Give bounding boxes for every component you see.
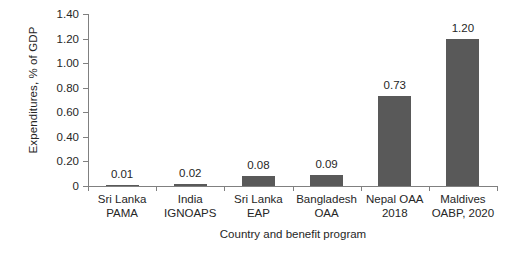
- x-axis-category-label: BangladeshOAA: [296, 193, 357, 220]
- bar-value-label: 0.73: [384, 79, 406, 91]
- x-axis-category-label: IndiaIGNOAPS: [164, 193, 216, 220]
- plot-area: [88, 14, 497, 186]
- bar-value-label: 0.09: [315, 158, 337, 170]
- x-axis-tick: [361, 186, 362, 191]
- y-axis-tick-label: 0.60: [0, 106, 79, 118]
- x-axis-category-label: Sri LankaPAMA: [98, 193, 147, 220]
- y-axis-tick-label: 0.20: [0, 155, 79, 167]
- y-axis-tick-label: 0.40: [0, 131, 79, 143]
- y-axis-tick-label: 1.40: [0, 8, 79, 20]
- bar: [174, 184, 207, 186]
- x-axis-tick: [429, 186, 430, 191]
- y-axis-tick-label: 0.80: [0, 82, 79, 94]
- x-axis-tick: [156, 186, 157, 191]
- bar-value-label: 1.20: [452, 22, 474, 34]
- bar-value-label: 0.08: [247, 159, 269, 171]
- y-axis-tick-label: 1.20: [0, 33, 79, 45]
- x-axis-category-label: Nepal OAA2018: [366, 193, 424, 220]
- x-axis-tick: [497, 186, 498, 191]
- x-axis-tick: [293, 186, 294, 191]
- x-axis-tick: [88, 186, 89, 191]
- bar-value-label: 0.01: [111, 168, 133, 180]
- x-axis-category-label: Sri LankaEAP: [234, 193, 283, 220]
- bar: [446, 39, 479, 186]
- x-axis-category-label: MaldivesOABP, 2020: [432, 193, 494, 220]
- x-axis-title: Country and benefit program: [88, 228, 498, 240]
- bar: [310, 175, 343, 186]
- x-axis-tick: [224, 186, 225, 191]
- bar-chart: Expenditures, % of GDP 00.200.400.600.80…: [0, 0, 530, 254]
- bar: [242, 176, 275, 186]
- y-axis-tick-label: 1.00: [0, 57, 79, 69]
- bar: [378, 96, 411, 186]
- bar: [106, 185, 139, 186]
- bar-value-label: 0.02: [179, 167, 201, 179]
- y-axis-tick-label: 0: [0, 180, 79, 192]
